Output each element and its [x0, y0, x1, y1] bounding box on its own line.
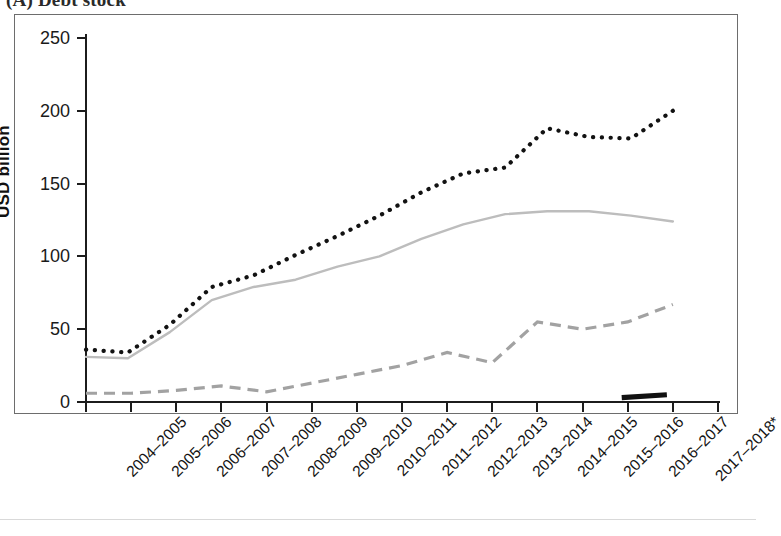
- x-tick: [401, 403, 403, 412]
- x-tick: [582, 403, 584, 412]
- x-tick: [311, 403, 313, 412]
- y-axis-tick-labels: 250 200 150 100 50 0: [22, 0, 70, 440]
- y-axis-title: USD billion: [0, 125, 14, 218]
- y-tick-label: 0: [60, 392, 70, 413]
- y-tick-label: 200: [40, 100, 70, 121]
- y-tick-label: 250: [40, 28, 70, 49]
- y-tick-label: 150: [40, 173, 70, 194]
- y-tick: [77, 328, 86, 330]
- x-tick: [491, 403, 493, 412]
- y-axis-line: [85, 34, 87, 406]
- x-tick: [356, 403, 358, 412]
- x-tick: [175, 403, 177, 412]
- x-tick: [266, 403, 268, 412]
- y-tick: [77, 255, 86, 257]
- x-tick: [717, 403, 719, 412]
- y-tick: [77, 183, 86, 185]
- y-tick-label: 50: [50, 319, 70, 340]
- x-tick: [220, 403, 222, 412]
- x-tick: [130, 403, 132, 412]
- y-tick: [77, 110, 86, 112]
- x-tick: [672, 403, 674, 412]
- x-tick: [446, 403, 448, 412]
- page-bottom-rule: [0, 519, 756, 520]
- x-tick: [85, 403, 87, 412]
- chart-frame: [14, 14, 738, 414]
- y-tick: [77, 37, 86, 39]
- y-tick-label: 100: [40, 246, 70, 267]
- x-tick: [627, 403, 629, 412]
- x-tick: [536, 403, 538, 412]
